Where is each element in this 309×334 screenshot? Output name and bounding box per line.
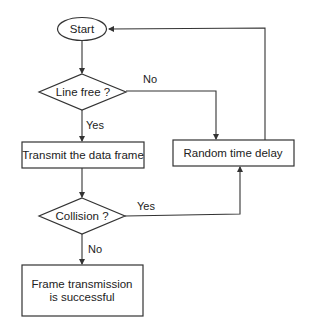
node-collision: Collision ? [39,198,125,234]
line-free-label: Line free ? [56,86,110,98]
flowchart-diagram: Start Line free ? Transmit the data fram… [0,0,309,334]
label-line-free-yes: Yes [86,119,104,131]
success-label-line2: is successful [49,291,114,303]
collision-label: Collision ? [55,210,108,222]
start-label: Start [70,23,95,35]
node-success: Frame transmission is successful [22,265,143,316]
node-transmit: Transmit the data frame [22,142,144,168]
node-delay: Random time delay [173,140,294,166]
node-line-free: Line free ? [39,74,126,110]
edge-delay-to-start [109,28,265,140]
transmit-label: Transmit the data frame [22,149,144,161]
label-line-free-no: No [143,73,157,85]
delay-label: Random time delay [183,147,282,159]
label-collision-no: No [88,243,102,255]
success-label-line1: Frame transmission [32,278,133,290]
label-collision-yes: Yes [137,200,155,212]
node-start: Start [58,18,107,41]
edge-linefree-no [126,91,216,139]
